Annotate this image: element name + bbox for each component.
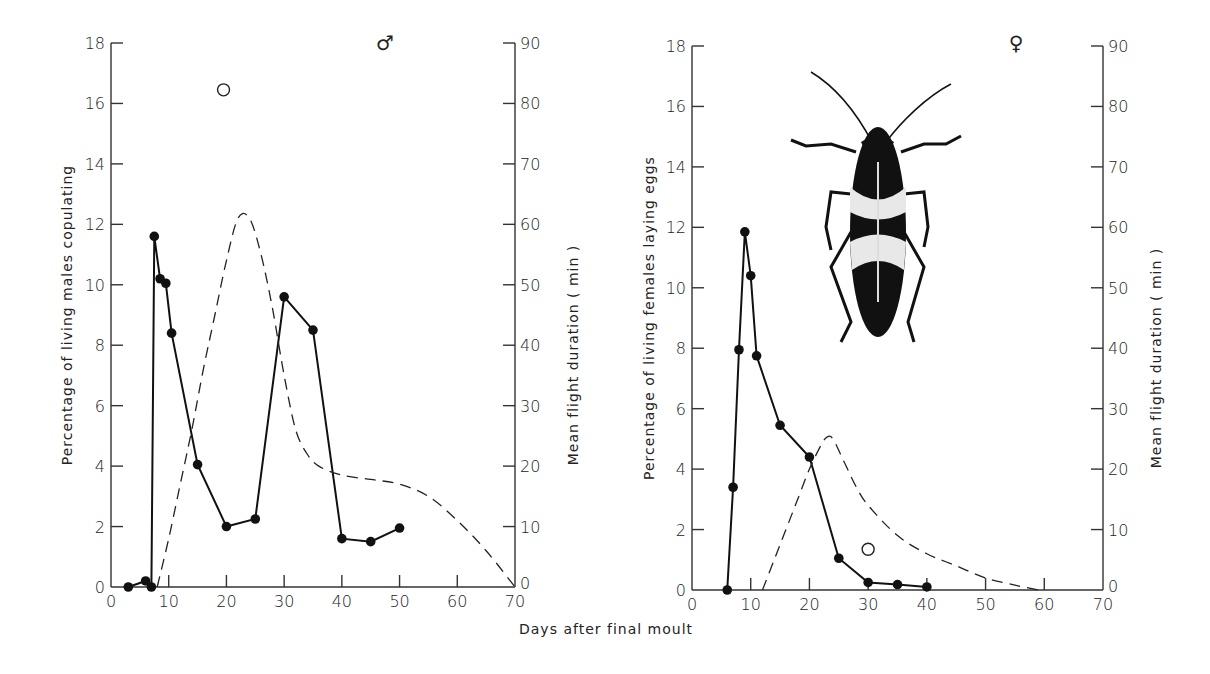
x-tick-label: 0 [687, 595, 697, 614]
data-point [805, 452, 815, 462]
x-tick-label: 10 [159, 592, 179, 611]
y2-tick-label: 0 [520, 574, 530, 593]
y2-tick-label: 90 [1108, 37, 1128, 56]
x-tick-label: 50 [389, 592, 409, 611]
y-tick-label: 12 [666, 218, 686, 237]
data-point [308, 325, 318, 335]
open-circle-marker [862, 543, 874, 555]
y2-tick-label: 70 [1108, 158, 1128, 177]
data-point [250, 514, 260, 524]
open-circle-marker [218, 84, 230, 96]
figure-canvas: 0246810121416180102030405060708090010203… [0, 0, 1210, 674]
data-point [752, 351, 762, 361]
x-tick-label: 40 [917, 595, 937, 614]
y2-tick-label: 40 [520, 336, 540, 355]
data-point [337, 534, 347, 544]
y2-tick-label: 10 [1108, 521, 1128, 540]
y-tick-label: 18 [666, 37, 686, 56]
y-tick-label: 0 [95, 578, 105, 597]
flight-duration-curve [762, 436, 1038, 590]
x-tick-label: 40 [332, 592, 352, 611]
y-tick-label: 10 [666, 279, 686, 298]
x-tick-label: 60 [447, 592, 467, 611]
data-point [740, 227, 750, 237]
y-tick-label: 4 [676, 460, 686, 479]
x-tick-label: 10 [741, 595, 761, 614]
y-tick-label: 4 [95, 457, 105, 476]
y2-tick-label: 10 [520, 518, 540, 537]
x-tick-label: 50 [975, 595, 995, 614]
y-tick-label: 0 [676, 581, 686, 600]
y-tick-label: 8 [95, 336, 105, 355]
data-point [161, 278, 171, 288]
chart-panel-left: 0246810121416180102030405060708090010203… [59, 31, 581, 611]
y-tick-label: 16 [666, 97, 686, 116]
x-tick-label: 70 [505, 592, 525, 611]
y2-tick-label: 80 [1108, 97, 1128, 116]
y2-tick-label: 0 [1108, 577, 1118, 596]
x-tick-label: 20 [216, 592, 236, 611]
y2-tick-label: 70 [520, 155, 540, 174]
data-point [395, 523, 405, 533]
female-symbol-icon: ♀ [1009, 31, 1024, 55]
y2-axis-title: Mean flight duration ( min ) [1148, 248, 1164, 469]
y2-tick-label: 60 [1108, 218, 1128, 237]
y-tick-label: 18 [85, 34, 105, 53]
y2-tick-label: 60 [520, 215, 540, 234]
data-point [728, 482, 738, 492]
data-point [147, 582, 157, 592]
y2-tick-label: 50 [520, 276, 540, 295]
data-point [149, 232, 159, 242]
data-point [193, 460, 203, 470]
y2-tick-label: 40 [1108, 339, 1128, 358]
insect-illustration-icon [791, 72, 961, 342]
x-tick-label: 60 [1034, 595, 1054, 614]
y2-tick-label: 20 [1108, 460, 1128, 479]
data-point [124, 582, 134, 592]
y-axis-title: Percentage of living males copulating [59, 165, 75, 465]
data-point [746, 271, 756, 281]
data-point [167, 328, 177, 338]
data-point [734, 345, 744, 355]
x-tick-label: 30 [858, 595, 878, 614]
y2-tick-label: 50 [1108, 279, 1128, 298]
y-tick-label: 6 [95, 397, 105, 416]
y2-tick-label: 20 [520, 457, 540, 476]
y-tick-label: 8 [676, 339, 686, 358]
y2-tick-label: 30 [520, 397, 540, 416]
data-point [834, 553, 844, 563]
x-tick-label: 70 [1093, 595, 1113, 614]
data-point [893, 580, 903, 590]
male-symbol-icon: ♂ [376, 31, 394, 55]
y-tick-label: 14 [666, 158, 686, 177]
data-point [863, 578, 873, 588]
chart-panel-right: 0246810121416180102030405060708090010203… [641, 31, 1164, 614]
y-tick-label: 6 [676, 400, 686, 419]
y-tick-label: 2 [95, 518, 105, 537]
data-point [922, 582, 932, 592]
y-tick-label: 10 [85, 276, 105, 295]
data-point [722, 585, 732, 595]
flight-duration-curve [157, 213, 515, 587]
x-tick-label: 20 [799, 595, 819, 614]
data-point [222, 522, 232, 532]
data-point [279, 292, 289, 302]
y-tick-label: 2 [676, 521, 686, 540]
y-tick-label: 14 [85, 155, 105, 174]
data-point [775, 420, 785, 430]
y2-tick-label: 80 [520, 94, 540, 113]
y-tick-label: 12 [85, 215, 105, 234]
y2-tick-label: 90 [520, 34, 540, 53]
x-tick-label: 30 [274, 592, 294, 611]
y2-tick-label: 30 [1108, 400, 1128, 419]
y2-axis-title: Mean flight duration ( min ) [565, 245, 581, 466]
y-axis-title: Percentage of living females laying eggs [641, 156, 657, 480]
y-tick-label: 16 [85, 94, 105, 113]
data-point [366, 537, 376, 547]
x-tick-label: 0 [106, 592, 116, 611]
